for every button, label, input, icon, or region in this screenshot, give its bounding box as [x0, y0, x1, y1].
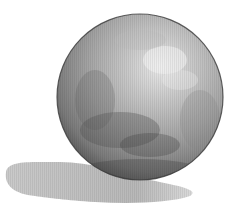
- sphere-illustration: [0, 0, 235, 210]
- sphere-drawing-scene: [0, 0, 235, 210]
